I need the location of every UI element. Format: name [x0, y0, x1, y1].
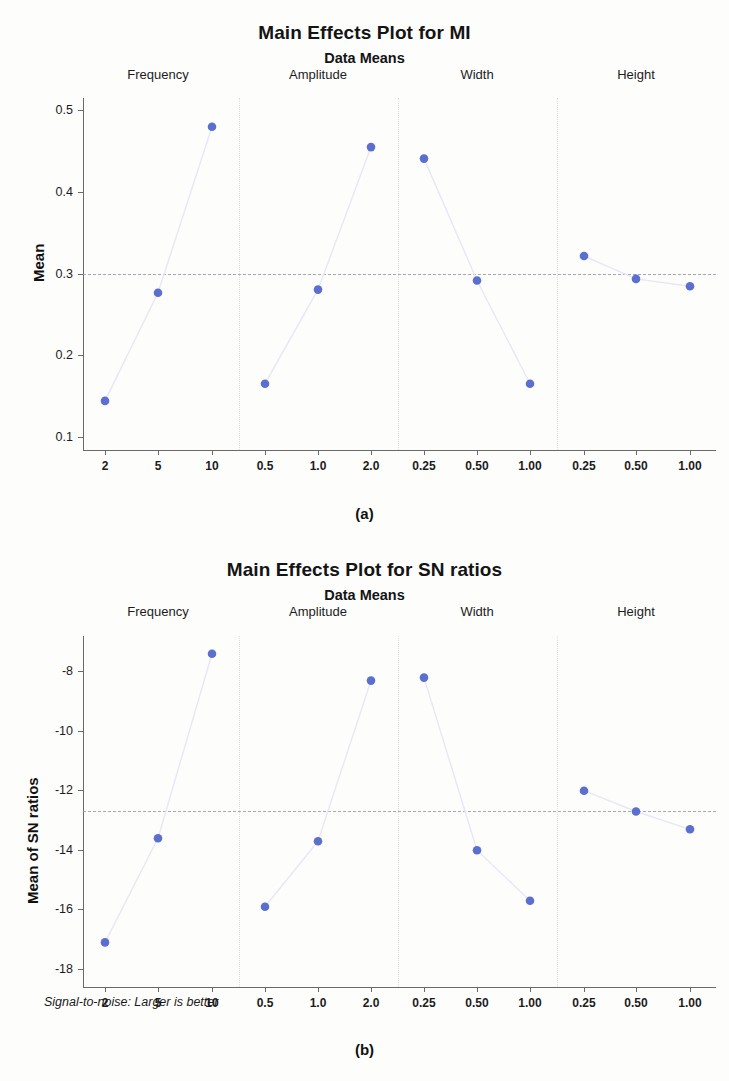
- panel-header-amplitude: Amplitude: [289, 604, 347, 619]
- figure-a-caption-text: (a): [355, 505, 373, 522]
- x-tick-mark: [158, 451, 159, 455]
- panel-header-width: Width: [460, 604, 493, 619]
- series-line-height: [584, 790, 690, 829]
- data-point: [686, 825, 695, 834]
- y-tick-label: 0.3: [25, 267, 73, 281]
- x-tick-mark: [424, 451, 425, 455]
- x-tick-label: 0.50: [624, 459, 647, 473]
- panel-header-width: Width: [460, 67, 493, 82]
- series-line-frequency: [105, 653, 212, 942]
- figure-a-caption: (a): [0, 505, 729, 522]
- panel-header-frequency: Frequency: [127, 604, 188, 619]
- x-tick-label: 0.25: [572, 459, 595, 473]
- y-tick-label: -12: [25, 783, 73, 797]
- data-point: [420, 154, 429, 163]
- data-point: [154, 288, 163, 297]
- x-tick-mark: [636, 988, 637, 992]
- x-tick-mark: [265, 451, 266, 455]
- y-tick-mark: [78, 790, 83, 791]
- x-tick-mark: [371, 988, 372, 992]
- x-tick-mark: [158, 988, 159, 992]
- x-tick-label: 0.50: [624, 996, 647, 1010]
- data-point: [686, 282, 695, 291]
- x-tick-mark: [265, 988, 266, 992]
- data-point: [580, 786, 589, 795]
- data-point: [367, 676, 376, 685]
- data-point: [208, 649, 217, 658]
- chart-a-series: [0, 67, 729, 487]
- figure-a: Main Effects Plot for MI Data Means Freq…: [0, 0, 729, 545]
- reference-line: [83, 274, 716, 275]
- x-tick-mark: [105, 451, 106, 455]
- reference-line: [83, 811, 716, 812]
- data-point: [580, 251, 589, 260]
- x-tick-mark: [477, 451, 478, 455]
- data-point: [526, 379, 535, 388]
- x-tick-label: 0.5: [257, 996, 274, 1010]
- series-line-frequency: [105, 126, 212, 400]
- y-tick-label: 0.1: [25, 430, 73, 444]
- x-tick-mark: [318, 451, 319, 455]
- y-tick-label: -8: [25, 664, 73, 678]
- x-tick-mark: [636, 451, 637, 455]
- x-tick-label: 2.0: [363, 996, 380, 1010]
- x-tick-mark: [424, 988, 425, 992]
- series-line-width: [424, 158, 530, 383]
- x-tick-label: 10: [205, 459, 218, 473]
- chart-b-series: [0, 604, 729, 1024]
- x-axis-spine: [83, 987, 716, 988]
- x-tick-label: 1.00: [678, 996, 701, 1010]
- y-tick-label: -18: [25, 962, 73, 976]
- y-tick-mark: [78, 969, 83, 970]
- y-tick-label: 0.5: [25, 103, 73, 117]
- x-tick-label: 5: [155, 459, 162, 473]
- x-tick-label: 1.00: [678, 459, 701, 473]
- x-tick-mark: [212, 451, 213, 455]
- data-point: [314, 836, 323, 845]
- figure-b-caption: (b): [0, 1041, 729, 1058]
- panel-header-frequency: Frequency: [127, 67, 188, 82]
- chart-b-title: Main Effects Plot for SN ratios: [0, 545, 729, 581]
- series-line-height: [584, 256, 690, 286]
- y-tick-mark: [78, 909, 83, 910]
- y-tick-label: 0.2: [25, 348, 73, 362]
- x-tick-label: 2.0: [363, 459, 380, 473]
- data-point: [473, 276, 482, 285]
- x-tick-mark: [584, 451, 585, 455]
- x-tick-mark: [212, 988, 213, 992]
- data-point: [314, 285, 323, 294]
- y-tick-label: -10: [25, 724, 73, 738]
- y-tick-mark: [78, 110, 83, 111]
- x-tick-mark: [105, 988, 106, 992]
- panel-header-amplitude: Amplitude: [289, 67, 347, 82]
- chart-a-title: Main Effects Plot for MI: [0, 0, 729, 44]
- chart-a-plot-area: FrequencyAmplitudeWidthHeight Mean 0.50.…: [0, 67, 729, 487]
- series-line-amplitude: [265, 680, 371, 906]
- y-tick-mark: [78, 192, 83, 193]
- y-tick-label: -14: [25, 843, 73, 857]
- data-point: [208, 122, 217, 131]
- data-point: [632, 274, 641, 283]
- panel-header-height: Height: [617, 67, 655, 82]
- x-tick-label: 0.5: [257, 459, 274, 473]
- x-tick-label: 0.25: [412, 996, 435, 1010]
- x-tick-mark: [477, 988, 478, 992]
- data-point: [261, 902, 270, 911]
- x-tick-mark: [690, 988, 691, 992]
- x-tick-mark: [530, 451, 531, 455]
- x-tick-mark: [371, 451, 372, 455]
- data-point: [154, 834, 163, 843]
- series-line-width: [424, 677, 530, 900]
- data-point: [526, 896, 535, 905]
- chart-a-subtitle: Data Means: [0, 50, 729, 67]
- x-tick-label: 1.00: [518, 459, 541, 473]
- chart-b-panel-headers: FrequencyAmplitudeWidthHeight: [0, 604, 729, 626]
- figure-b-caption-text: (b): [355, 1041, 374, 1058]
- x-tick-mark: [584, 988, 585, 992]
- x-tick-label: 1.0: [310, 996, 327, 1010]
- data-point: [420, 673, 429, 682]
- series-line-amplitude: [265, 147, 371, 384]
- data-point: [101, 396, 110, 405]
- y-tick-mark: [78, 437, 83, 438]
- x-tick-label: 1.00: [518, 996, 541, 1010]
